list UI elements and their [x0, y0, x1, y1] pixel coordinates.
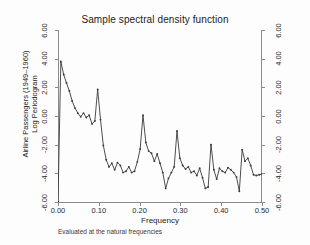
data-point — [80, 116, 82, 118]
data-point — [227, 167, 229, 169]
data-point — [139, 148, 141, 150]
y-axis-title: Airline Passengers (1949–1960) Log Perio… — [21, 24, 39, 184]
y-tick-mark-right — [262, 59, 265, 60]
data-point — [119, 165, 121, 167]
y-tick-label-right: 0.00 — [274, 103, 283, 129]
y-tick-label-right: 2.00 — [274, 74, 283, 100]
data-point — [156, 153, 158, 155]
y-tick-label-left: -2.00 — [40, 132, 49, 158]
y-axis-title-line-2: Log Periodogram — [30, 24, 39, 184]
y-tick-label-left: -4.00 — [40, 160, 49, 186]
x-tick-label: 0.40 — [206, 206, 236, 215]
data-point — [153, 160, 155, 162]
y-tick-label-left: 6.00 — [40, 17, 49, 43]
data-point — [213, 169, 215, 171]
data-point — [100, 119, 102, 121]
data-point — [255, 175, 257, 177]
x-axis-title: Frequency — [58, 216, 262, 225]
data-point — [241, 149, 243, 151]
data-point — [151, 152, 153, 154]
data-point — [91, 123, 93, 125]
x-axis-line — [58, 202, 262, 203]
chart-note: Evaluated at the natural frequencies — [58, 228, 162, 235]
data-point — [125, 170, 127, 172]
data-point — [122, 172, 124, 174]
data-point — [66, 82, 68, 84]
data-point — [111, 162, 113, 164]
data-point — [88, 114, 90, 116]
data-point — [74, 107, 76, 109]
data-point — [199, 167, 201, 169]
data-point — [71, 100, 73, 102]
data-point — [224, 172, 226, 174]
data-point — [253, 174, 255, 176]
data-point — [148, 150, 150, 152]
data-point — [219, 167, 221, 169]
y-tick-mark-right — [262, 116, 265, 117]
data-point — [63, 73, 65, 75]
data-point — [162, 172, 164, 174]
data-point — [68, 90, 70, 92]
y-tick-mark-right — [262, 173, 265, 174]
series-line — [58, 62, 262, 202]
y-axis-title-line-1: Airline Passengers (1949–1960) — [21, 50, 30, 157]
data-point — [145, 142, 147, 144]
data-point — [58, 201, 59, 202]
data-point — [221, 170, 223, 172]
plot-area — [58, 30, 262, 202]
y-tick-label-left: 4.00 — [40, 46, 49, 72]
data-point — [83, 112, 85, 114]
data-point — [187, 166, 189, 168]
data-point — [250, 165, 252, 167]
data-point — [210, 144, 212, 146]
data-point — [134, 170, 136, 172]
data-point — [179, 157, 181, 159]
x-tick-label: 0.10 — [84, 206, 114, 215]
data-point — [202, 177, 204, 179]
data-point — [114, 169, 116, 171]
y-tick-label-right: -2.00 — [274, 132, 283, 158]
data-point — [170, 172, 172, 174]
data-point — [176, 130, 178, 132]
data-point — [196, 175, 198, 177]
data-point — [131, 172, 133, 174]
y-tick-label-right: 4.00 — [274, 46, 283, 72]
series-log-periodogram — [58, 30, 262, 202]
y-tick-mark-right — [262, 145, 265, 146]
series-markers — [58, 61, 262, 202]
data-point — [105, 159, 107, 161]
data-point — [216, 178, 218, 180]
data-point — [233, 172, 235, 174]
data-point — [244, 160, 246, 162]
y-tick-label-left: 0.00 — [40, 103, 49, 129]
data-point — [136, 161, 138, 163]
data-point — [85, 116, 87, 118]
data-point — [97, 89, 99, 91]
data-point — [60, 61, 62, 63]
data-point — [102, 144, 104, 146]
data-point — [207, 186, 209, 188]
data-point — [182, 165, 184, 167]
data-point — [117, 162, 119, 164]
y-tick-mark-right — [262, 87, 265, 88]
y-tick-label-right: -4.00 — [274, 160, 283, 186]
data-point — [193, 170, 195, 172]
spectral-density-figure: Sample spectral density function Airline… — [0, 0, 310, 245]
data-point — [77, 112, 79, 114]
x-tick-label: 0.50 — [247, 206, 277, 215]
data-point — [258, 174, 260, 176]
data-point — [185, 168, 187, 170]
data-point — [238, 190, 240, 192]
data-point — [108, 166, 110, 168]
data-point — [190, 172, 192, 174]
data-point — [159, 162, 161, 164]
data-point — [165, 187, 167, 189]
data-point — [230, 169, 232, 171]
data-point — [94, 120, 96, 122]
x-tick-label: 0.00 — [43, 206, 73, 215]
data-point — [173, 166, 175, 168]
data-point — [128, 166, 130, 168]
data-point — [142, 114, 144, 116]
data-point — [168, 177, 170, 179]
data-point — [204, 187, 206, 189]
